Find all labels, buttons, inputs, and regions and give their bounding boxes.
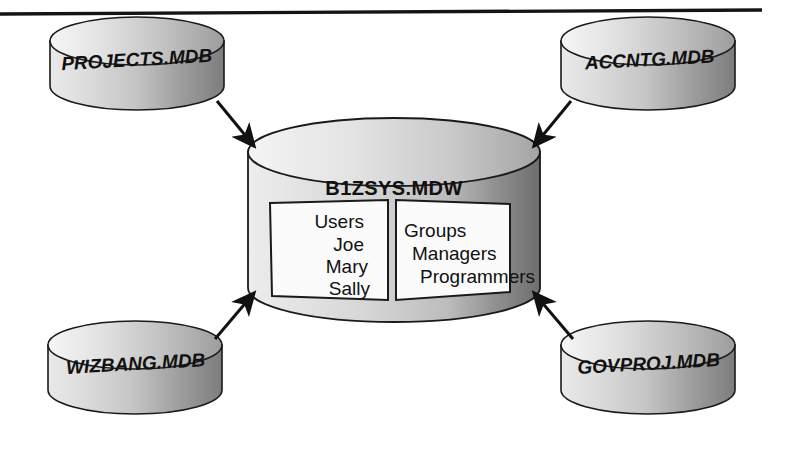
users-panel-line-1: Joe (333, 234, 364, 255)
database-cylinder-central: B1ZSYS.MDW Users Joe Mary Sally Groups M… (248, 118, 540, 322)
database-cylinder-wizbang: WIZBANG.MDB (48, 321, 222, 414)
users-panel-line-3: Sally (329, 278, 371, 299)
central-database-label: B1ZSYS.MDW (325, 177, 462, 199)
arrow-govproj-to-central (534, 293, 573, 339)
groups-panel-line-1: Managers (412, 243, 497, 264)
arrow-projects-to-central (217, 101, 254, 146)
database-cylinder-projects: PROJECTS.MDB (50, 17, 224, 110)
top-rule (0, 10, 762, 14)
cylinder-top (248, 118, 540, 186)
users-panel-line-0: Users (314, 211, 364, 232)
arrow-accntg-to-central (534, 101, 571, 146)
users-panel: Users Joe Mary Sally (270, 200, 388, 300)
arrow-wizbang-to-central (215, 293, 254, 339)
database-cylinder-accntg: ACCNTG.MDB (561, 17, 735, 110)
workgroup-database-diagram: PROJECTS.MDB ACCNTG.MDB WIZBANG.MDB GOVP… (0, 0, 787, 452)
users-panel-line-2: Mary (326, 256, 369, 277)
database-cylinder-govproj: GOVPROJ.MDB (561, 321, 735, 414)
diagram-canvas: PROJECTS.MDB ACCNTG.MDB WIZBANG.MDB GOVP… (0, 0, 787, 452)
groups-panel-line-2: Programmers (420, 266, 535, 287)
groups-panel-line-0: Groups (404, 220, 466, 241)
